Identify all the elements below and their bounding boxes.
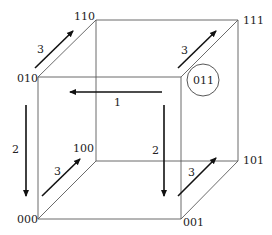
hypercube-diagram: 000 001 010 011 100 101 110 111 1 2 2 3 …	[0, 0, 272, 235]
arrow-3-bottom-left-icon	[42, 159, 80, 196]
depth-edges	[38, 20, 238, 219]
edge-010-110	[38, 20, 96, 77]
vertex-labels: 000 001 010 011 100 101 110 111	[17, 10, 264, 229]
arrow-label-2-right: 2	[152, 144, 159, 157]
vertex-label-101: 101	[243, 154, 264, 167]
vertex-label-010: 010	[17, 72, 38, 85]
arrow-label-3-top-left: 3	[37, 43, 44, 56]
arrow-label-2-left: 2	[12, 143, 19, 156]
edge-000-100	[38, 161, 96, 219]
vertex-label-011: 011	[193, 74, 214, 87]
vertex-label-110: 110	[74, 10, 95, 23]
vertex-label-100: 100	[73, 142, 94, 155]
vertex-label-111: 111	[243, 14, 264, 27]
vertex-label-000: 000	[17, 213, 38, 226]
arrow-3-bottom-right-icon	[178, 158, 216, 196]
vertex-label-001: 001	[183, 216, 204, 229]
arrow-label-3-top-right: 3	[181, 44, 188, 57]
arrow-label-3-bottom-left: 3	[54, 165, 61, 178]
arrow-label-1: 1	[114, 96, 121, 109]
arrow-label-3-bottom-right: 3	[188, 166, 195, 179]
